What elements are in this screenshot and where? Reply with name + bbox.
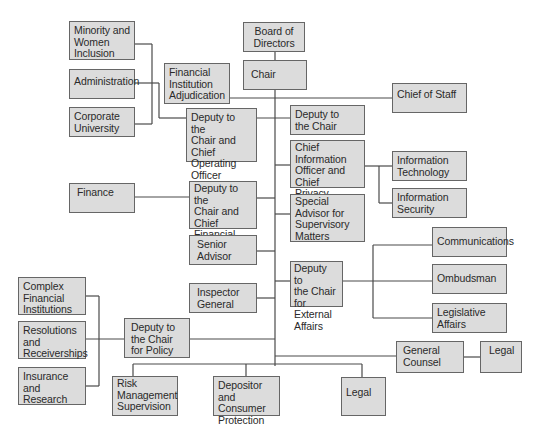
node-financial-institution-adjudication: Financial Institution Adjudication: [164, 63, 230, 104]
node-complex-financial-institutions: Complex Financial Institutions: [18, 277, 86, 315]
node-minority-women-inclusion: Minority and Women Inclusion: [69, 21, 135, 60]
node-senior-advisor: Senior Advisor: [189, 235, 257, 265]
node-deputy-chair-external-affairs: Deputy to the Chair for External Affairs: [290, 261, 343, 307]
node-inspector-general: Inspector General: [189, 283, 257, 313]
node-chair: Chair: [243, 60, 307, 90]
node-information-technology: Information Technology: [392, 151, 467, 181]
node-ombudsman: Ombudsman: [432, 264, 507, 294]
node-special-advisor-supervisory: Special Advisor for Supervisory Matters: [290, 194, 365, 242]
node-information-security: Information Security: [392, 188, 467, 218]
node-administration: Administration: [69, 69, 135, 99]
org-chart: Board of Directors Chair Minority and Wo…: [0, 0, 543, 443]
node-resolutions-receiverships: Resolutions and Receiverships: [18, 321, 86, 359]
node-risk-management-supervision: Risk Management Supervision: [112, 376, 178, 416]
node-deputy-chair-policy: Deputy to the Chair for Policy: [124, 318, 190, 358]
node-cio-privacy-officer: Chief Information Officer and Chief Priv…: [290, 140, 365, 188]
node-finance: Finance: [69, 183, 135, 213]
node-corporate-university: Corporate University: [69, 107, 135, 137]
node-deputy-chair-cfo: Deputy to the Chair and Chief Financial …: [189, 181, 257, 229]
node-depositor-consumer-protection: Depositor and Consumer Protection: [213, 376, 280, 416]
node-board-of-directors: Board of Directors: [243, 22, 305, 52]
node-chief-of-staff: Chief of Staff: [392, 83, 467, 113]
node-legal: Legal: [341, 377, 386, 416]
node-insurance-research: Insurance and Research: [18, 367, 86, 405]
node-deputy-to-the-chair: Deputy to the Chair: [290, 105, 365, 135]
node-deputy-chair-coo: Deputy to the Chair and Chief Operating …: [186, 108, 257, 162]
node-legislative-affairs: Legislative Affairs: [432, 303, 507, 333]
node-communications: Communications: [432, 227, 507, 257]
node-general-counsel: General Counsel: [396, 341, 464, 373]
node-legal-general-counsel: Legal: [480, 341, 522, 373]
